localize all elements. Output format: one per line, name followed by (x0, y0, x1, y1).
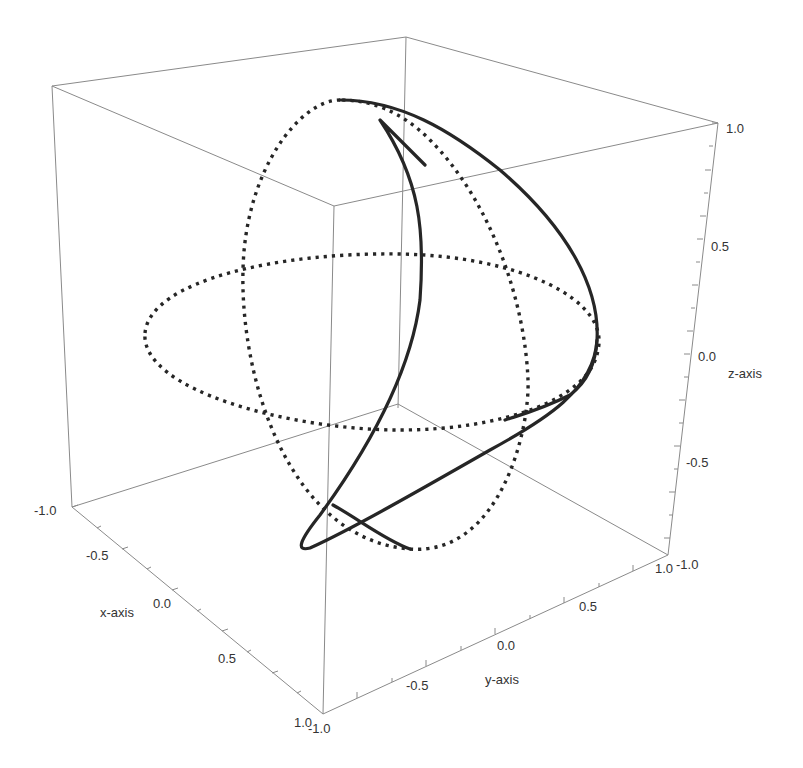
z-axis-label: z-axis (728, 366, 762, 381)
x-axis-ticks (72, 505, 301, 693)
z-tick-label: -0.5 (686, 455, 708, 470)
series-vertical-circle (243, 100, 528, 549)
y-tick-label: 0.0 (497, 638, 515, 653)
z-tick-label: 0.5 (711, 239, 729, 254)
x-tick-label: 0.0 (153, 596, 171, 611)
bounding-box (52, 37, 718, 714)
series-solid-curve (301, 100, 597, 549)
z-tick-label: 1.0 (726, 121, 744, 136)
y-tick-label: -0.5 (406, 678, 428, 693)
z-tick-label: 0.0 (698, 349, 716, 364)
x-tick-label: -1.0 (34, 503, 56, 518)
plot-canvas: -1.0 -0.5 0.0 0.5 1.0 -1.0 -0.5 0.0 0.5 … (0, 0, 803, 768)
y-tick-label: 0.5 (579, 599, 597, 614)
series-horizontal-circle (145, 254, 599, 430)
z-axis-ticks (664, 123, 718, 538)
y-axis-label: y-axis (485, 672, 519, 687)
x-tick-labels: -1.0 -0.5 0.0 0.5 1.0 (34, 503, 312, 730)
x-tick-label: 0.5 (218, 651, 236, 666)
series-solid-curve-branch-2 (505, 340, 597, 420)
series-solid-curve-branch (333, 505, 410, 549)
x-axis-label: x-axis (100, 605, 134, 620)
y-tick-label: 1.0 (655, 561, 673, 576)
x-tick-label: -0.5 (86, 548, 108, 563)
z-tick-label: -1.0 (676, 557, 698, 572)
y-tick-label: -1.0 (308, 721, 330, 736)
y-tick-labels: -1.0 -0.5 0.0 0.5 1.0 (308, 561, 673, 736)
